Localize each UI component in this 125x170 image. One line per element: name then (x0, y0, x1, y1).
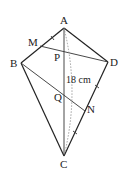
label-q: Q (54, 91, 62, 103)
label-b: B (10, 57, 17, 69)
label-a: A (60, 14, 68, 26)
segment-bc (21, 63, 64, 156)
label-c: C (60, 158, 67, 170)
label-d: D (110, 56, 118, 68)
label-m: M (28, 36, 38, 48)
segment-bn (21, 63, 85, 111)
dimension-arc (64, 28, 72, 156)
measurement-label: 18 cm (66, 74, 91, 85)
label-p: P (54, 51, 60, 63)
label-n: N (87, 103, 95, 115)
kite-diagram: A B C D M N P Q 18 cm (0, 0, 125, 170)
